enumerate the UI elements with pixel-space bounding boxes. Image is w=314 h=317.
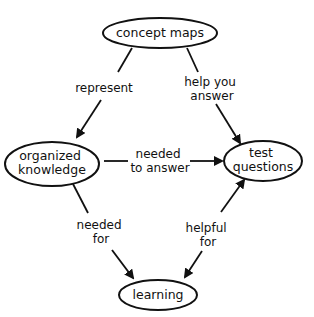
node-organized-knowledge: organized knowledge <box>5 142 99 186</box>
edge-helpful-for: helpful for <box>185 180 244 277</box>
edge-label-needed-for: needed for <box>77 218 126 246</box>
node-concept-maps-label: concept maps <box>116 25 204 40</box>
edge-help-you-answer-line-top <box>187 48 198 72</box>
edge-represent-line-top <box>118 48 132 72</box>
concept-map-diagram: represent help you answer needed to answ… <box>0 0 314 317</box>
node-concept-maps: concept maps <box>103 18 217 48</box>
edge-needed-for-arrow <box>112 250 133 278</box>
node-learning-label: learning <box>133 287 184 302</box>
edge-represent-arrow <box>77 100 101 137</box>
edge-label-help-you-answer: help you answer <box>184 75 240 103</box>
edge-label-needed-to-answer: needed to answer <box>130 147 189 175</box>
edge-label-represent: represent <box>75 81 133 95</box>
edge-helpful-for-arrow-top <box>221 180 244 212</box>
edge-help-you-answer: help you answer <box>184 48 240 143</box>
edge-needed-for-line-top <box>73 184 88 213</box>
node-test-questions: test questions <box>224 141 302 181</box>
edge-represent: represent <box>75 48 133 137</box>
edge-helpful-for-arrow-bottom <box>185 251 202 277</box>
node-learning: learning <box>119 280 197 310</box>
edge-needed-to-answer: needed to answer <box>104 147 222 175</box>
edge-help-you-answer-arrow <box>216 104 240 143</box>
edge-label-helpful-for: helpful for <box>186 221 231 249</box>
node-organized-knowledge-label: organized knowledge <box>18 148 86 177</box>
edge-needed-for: needed for <box>73 184 133 278</box>
